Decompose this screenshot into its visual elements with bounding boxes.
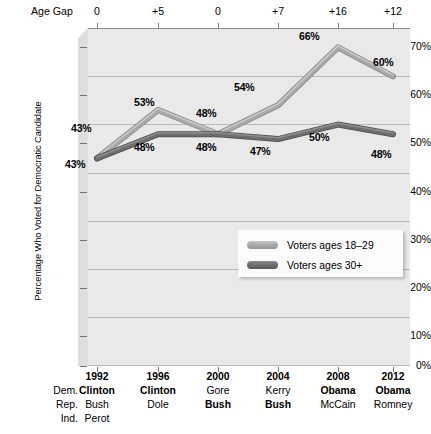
bottom-year-2008: 2008: [307, 371, 369, 382]
data-label-older-2000: 48%: [196, 141, 216, 153]
bottom-year-1996: 1996: [127, 371, 189, 382]
data-label-youth-2008: 66%: [299, 30, 319, 42]
bottom-rep-2000: Bush: [187, 399, 249, 410]
y-tick-label-70: 70%: [385, 41, 431, 52]
age-gap-value-1992: 0: [77, 5, 117, 17]
data-label-youth-2004: 54%: [234, 81, 254, 93]
legend-label-30plus: Voters ages 30+: [287, 260, 362, 271]
top-tick-2000: [218, 23, 219, 28]
legend-label-18-29: Voters ages 18–29: [287, 240, 374, 251]
age-gap-value-2000: 0: [198, 5, 238, 17]
data-label-youth-1992: 43%: [71, 122, 91, 134]
top-tick-2004: [278, 23, 279, 28]
legend-swatch-18-29: [247, 241, 278, 249]
y-tick-label-40: 40%: [385, 186, 431, 197]
bottom-rep-1992: Bush: [66, 399, 128, 410]
bottom-year-1992: 1992: [66, 371, 128, 382]
bottom-year-2012: 2012: [362, 371, 424, 382]
bottom-rep-2008: McCain: [307, 399, 369, 410]
legend-item-voters-18-29: Voters ages 18–29: [247, 235, 374, 255]
y-tick-dash-70: [80, 47, 87, 48]
plot-bevel-left: [78, 28, 88, 366]
data-label-youth-2012: 60%: [373, 56, 393, 68]
bottom-dem-2008: Obama: [307, 385, 369, 396]
legend-item-voters-30plus: Voters ages 30+: [247, 255, 362, 275]
plot-area: [88, 28, 410, 366]
bottom-dem-1992: Clinton: [66, 385, 128, 396]
age-gap-row-label: Age Gap: [31, 5, 73, 17]
legend: Voters ages 18–29 Voters ages 30+: [238, 230, 403, 277]
top-tick-2012: [393, 23, 394, 28]
data-label-older-1996: 48%: [134, 141, 154, 153]
bottom-rep-2004: Bush: [247, 399, 309, 410]
age-gap-value-2012: +12: [373, 5, 413, 17]
bottom-dem-2012: Obama: [362, 385, 424, 396]
age-gap-value-1996: +5: [138, 5, 178, 17]
series-lines: [88, 28, 410, 366]
bottom-ind-1992: Perot: [66, 413, 128, 424]
y-tick-dash-30: [80, 240, 87, 241]
y-tick-dash-20: [80, 288, 87, 289]
data-label-older-2004: 47%: [250, 145, 270, 157]
y-tick-label-60: 60%: [385, 89, 431, 100]
top-tick-1996: [158, 23, 159, 28]
data-label-youth-2000: 48%: [196, 107, 216, 119]
age-gap-value-2008: +16: [318, 5, 358, 17]
bottom-rep-2012: Romney: [362, 399, 424, 410]
y-axis-title: Percentage Who Voted for Democratic Cand…: [33, 51, 43, 351]
y-tick-dash-60: [80, 95, 87, 96]
top-tick-1992: [97, 23, 98, 28]
y-tick-dash-40: [80, 192, 87, 193]
bottom-dem-1996: Clinton: [127, 385, 189, 396]
y-tick-label-0: 0%: [385, 360, 431, 371]
data-label-youth-1996: 53%: [134, 96, 154, 108]
bottom-year-2000: 2000: [187, 371, 249, 382]
top-tick-2008: [338, 23, 339, 28]
legend-swatch-30plus: [247, 261, 278, 269]
data-label-older-2012: 48%: [371, 148, 391, 160]
bottom-dem-2004: Kerry: [247, 385, 309, 396]
chart-container: Percentage Who Voted for Democratic Cand…: [0, 0, 431, 434]
y-tick-dash-10: [80, 336, 87, 337]
y-tick-dash-50: [80, 143, 87, 144]
data-label-older-1992: 43%: [65, 158, 85, 170]
bottom-rep-1996: Dole: [127, 399, 189, 410]
y-tick-dash-0: [80, 366, 87, 367]
y-tick-label-20: 20%: [385, 282, 431, 293]
data-label-older-2008: 50%: [309, 131, 329, 143]
bottom-dem-2000: Gore: [187, 385, 249, 396]
bottom-year-2004: 2004: [247, 371, 309, 382]
y-tick-label-50: 50%: [385, 137, 431, 148]
top-axis-line: [88, 28, 410, 29]
age-gap-value-2004: +7: [258, 5, 298, 17]
y-tick-label-10: 10%: [385, 330, 431, 341]
